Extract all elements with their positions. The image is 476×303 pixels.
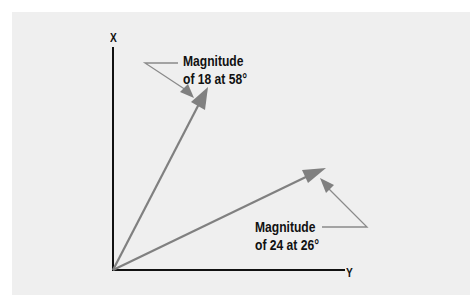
- vector-diagram: [0, 0, 476, 303]
- horizontal-axis-label: Y: [346, 266, 353, 279]
- callout-24-line1: Magnitude: [255, 218, 319, 236]
- callout-label-18: Magnitude of 18 at 58°: [183, 52, 247, 88]
- vertical-axis-label: X: [110, 31, 117, 44]
- callout-24-line2: of 24 at 26°: [255, 236, 319, 254]
- callout-leader-24: [320, 178, 367, 227]
- vector-18-arrow: [113, 87, 208, 270]
- callout-18-line1: Magnitude: [183, 52, 247, 70]
- callout-label-24: Magnitude of 24 at 26°: [255, 218, 319, 254]
- callout-18-line2: of 18 at 58°: [183, 70, 247, 88]
